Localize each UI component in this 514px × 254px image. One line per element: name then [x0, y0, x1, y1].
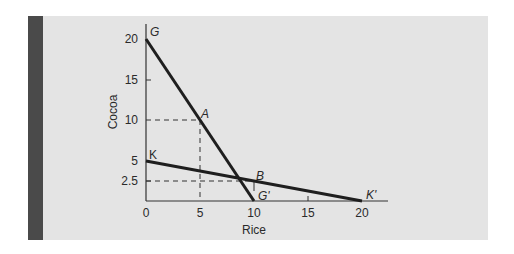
y-label-2.5: 2.5: [121, 174, 138, 188]
label-k-prime: K': [366, 188, 377, 202]
x-label-5: 5: [197, 206, 204, 220]
label-g-prime: G': [258, 189, 270, 203]
y-label-20: 20: [125, 32, 139, 46]
y-axis-title: Cocoa: [106, 94, 120, 129]
label-g: G: [150, 25, 159, 39]
x-label-10: 10: [247, 206, 261, 220]
label-k: K: [149, 148, 157, 162]
x-label-15: 15: [301, 206, 315, 220]
chart-svg: 20 15 10 5 2.5 0 5 10 15 20 Rice Cocoa G…: [0, 0, 514, 254]
y-label-10: 10: [125, 113, 139, 127]
x-label-20: 20: [355, 206, 369, 220]
label-a: A: [200, 107, 209, 121]
x-label-0: 0: [143, 206, 150, 220]
label-b: B: [256, 169, 264, 183]
x-axis-title: Rice: [242, 223, 266, 237]
line-kk: [146, 161, 362, 201]
y-label-5: 5: [131, 154, 138, 168]
y-label-15: 15: [125, 73, 139, 87]
